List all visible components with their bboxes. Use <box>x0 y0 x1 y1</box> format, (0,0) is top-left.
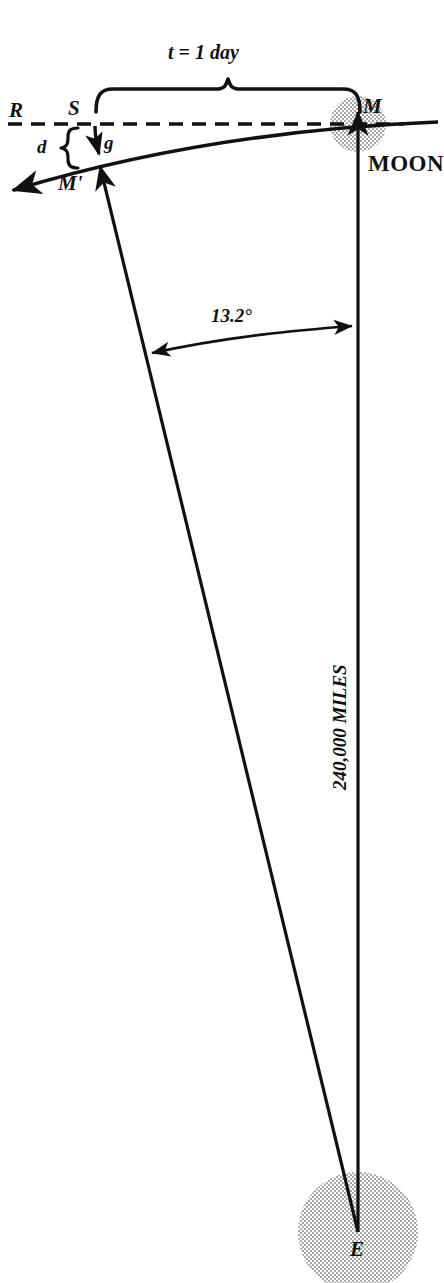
label-moon-word: MOON <box>368 152 444 175</box>
time-brace <box>96 79 360 112</box>
angle-arc-13-2 <box>152 326 352 353</box>
label-angle: 13.2° <box>211 306 252 325</box>
label-S: S <box>68 98 80 119</box>
label-M: M <box>363 96 382 117</box>
label-R: R <box>9 100 23 121</box>
label-E: E <box>350 1239 364 1260</box>
label-time-span: t = 1 day <box>168 42 239 62</box>
label-M-prime: M' <box>58 173 83 194</box>
distance-d-brace <box>61 128 78 168</box>
label-g: g <box>104 133 114 152</box>
label-d: d <box>37 137 47 156</box>
gravity-arrow-g <box>95 126 99 154</box>
label-distance: 240,000 MILES <box>330 664 349 790</box>
